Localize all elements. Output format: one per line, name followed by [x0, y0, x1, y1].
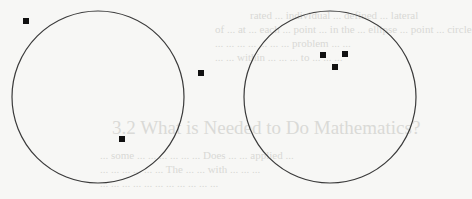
square-point-left — [119, 136, 125, 142]
square-point-right — [332, 64, 338, 70]
points — [23, 18, 348, 142]
square-point-right — [342, 51, 348, 57]
circle-left — [12, 11, 184, 183]
square-point-left — [198, 70, 204, 76]
square-point-left — [23, 18, 29, 24]
circles — [12, 11, 416, 183]
square-point-right — [320, 52, 326, 58]
circle-right — [244, 11, 416, 183]
